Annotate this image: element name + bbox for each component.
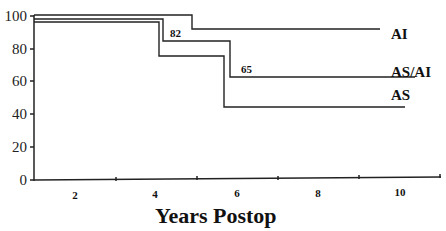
y-tick-40: 40 <box>12 106 27 122</box>
x-axis: 2 4 6 8 10 Years Postop <box>34 174 441 228</box>
annotation-65: 65 <box>241 63 253 75</box>
y-axis: 100 80 60 40 20 0 <box>5 8 35 188</box>
y-tick-0: 0 <box>20 172 28 188</box>
y-tick-100: 100 <box>5 8 28 24</box>
curve-as <box>34 22 405 107</box>
x-tick-2: 2 <box>72 189 78 201</box>
y-tick-20: 20 <box>12 139 27 155</box>
survival-chart: 100 80 60 40 20 0 2 4 6 8 10 Years Posto… <box>0 0 446 231</box>
x-tick-6: 6 <box>234 187 240 199</box>
series-label-ai: AI <box>391 26 408 42</box>
y-tick-80: 80 <box>12 41 27 57</box>
x-tick-8: 8 <box>315 187 321 199</box>
annotation-82: 82 <box>170 27 182 39</box>
y-tick-60: 60 <box>12 73 27 89</box>
series-label-as: AS <box>391 87 410 103</box>
x-tick-4: 4 <box>152 188 158 200</box>
x-axis-label: Years Postop <box>155 203 277 228</box>
series-label-as-ai: AS/AI <box>391 64 431 80</box>
x-tick-10: 10 <box>395 186 407 198</box>
